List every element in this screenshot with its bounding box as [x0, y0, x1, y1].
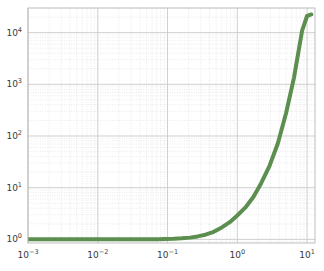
- x-tick-label: 10−2: [87, 250, 108, 260]
- y-tick-label: 100: [6, 234, 22, 244]
- x-tick-label: 100: [230, 250, 246, 260]
- x-tick-label: 10−3: [17, 250, 38, 260]
- plot-background: [28, 8, 315, 243]
- x-tick-label: 101: [299, 250, 315, 260]
- x-tick-label: 10−1: [157, 250, 178, 260]
- y-tick-label: 103: [6, 79, 22, 89]
- y-tick-label: 101: [6, 183, 22, 193]
- chart-figure: 10−310−210−1100101 100101102103104: [0, 0, 324, 271]
- y-tick-label: 104: [6, 28, 22, 38]
- y-tick-label: 102: [6, 131, 22, 141]
- chart-plot-area: [0, 0, 324, 271]
